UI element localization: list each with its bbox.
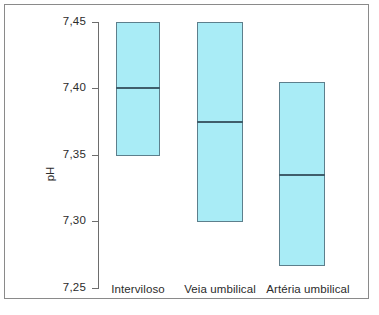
y-tick-label-7-40: 7,40	[40, 81, 86, 93]
y-tick-mark-7-40	[92, 88, 99, 89]
y-axis-title: pH	[44, 154, 56, 194]
y-tick-mark-7-35	[92, 155, 99, 156]
y-tick-label-7-45: 7,45	[40, 15, 86, 27]
y-tick-label-7-30: 7,30	[40, 214, 86, 226]
median-line-veia-umbilical	[197, 121, 243, 123]
x-category-label-interviloso: Interviloso	[98, 283, 178, 295]
y-tick-mark-7-30	[92, 221, 99, 222]
x-category-label-arteria-umbilical: Artéria umbilical	[258, 283, 358, 295]
x-category-label-veia-umbilical: Veia umbilical	[178, 283, 262, 295]
figure-root: 7,45 7,40 7,35 7,30 7,25 pH Interviloso …	[0, 0, 379, 315]
median-line-arteria-umbilical	[279, 174, 325, 176]
y-tick-mark-7-45	[92, 22, 99, 23]
y-tick-label-7-25: 7,25	[40, 281, 86, 293]
median-line-interviloso	[116, 87, 160, 89]
plot-area: 7,45 7,40 7,35 7,30 7,25 pH Interviloso …	[0, 0, 379, 315]
box-interviloso	[116, 22, 160, 156]
